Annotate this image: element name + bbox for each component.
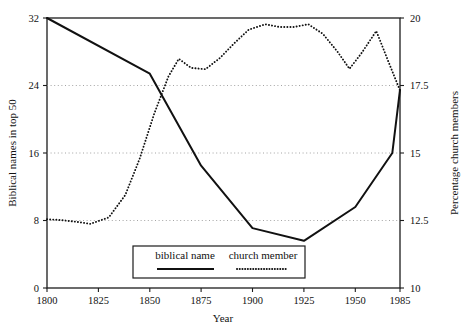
y-right-tick-label-17_5: 17.5 bbox=[410, 80, 428, 91]
y-left-axis-title: Biblical names in top 50 bbox=[6, 99, 18, 207]
y-right-tick-label-12_5: 12.5 bbox=[410, 215, 428, 226]
x-tick-label-1825: 1825 bbox=[88, 295, 109, 306]
legend-label-biblical-name: biblical name bbox=[155, 249, 215, 261]
gridlines bbox=[47, 86, 400, 221]
x-tick-label-1985: 1985 bbox=[390, 295, 411, 306]
x-tick-label-1800: 1800 bbox=[37, 295, 58, 306]
x-tick-label-1925: 1925 bbox=[293, 295, 314, 306]
x-tick-label-1850: 1850 bbox=[139, 295, 160, 306]
y-left-tick-label-24: 24 bbox=[29, 80, 40, 91]
chart-figure: 0 8 16 24 32 10 12.5 15 17.5 20 bbox=[0, 0, 474, 331]
x-tick-label-1950: 1950 bbox=[345, 295, 366, 306]
x-axis-title: Year bbox=[213, 312, 234, 324]
legend-label-church-member: church member bbox=[229, 249, 298, 261]
series-biblical-name bbox=[47, 18, 400, 241]
y-left-tick-label-8: 8 bbox=[34, 215, 39, 226]
y-left-tick-label-0: 0 bbox=[34, 283, 39, 294]
y-right-tick-label-10: 10 bbox=[410, 283, 421, 294]
x-tick-label-1875: 1875 bbox=[191, 295, 212, 306]
chart-legend[interactable]: biblical name church member bbox=[133, 246, 305, 278]
dual-axis-line-chart: 0 8 16 24 32 10 12.5 15 17.5 20 bbox=[0, 0, 474, 331]
y-left-tick-label-16: 16 bbox=[29, 148, 40, 159]
y-right-tick-label-20: 20 bbox=[410, 13, 421, 24]
y-right-tick-label-15: 15 bbox=[410, 148, 421, 159]
y-left-tick-label-32: 32 bbox=[29, 13, 40, 24]
x-tick-label-1900: 1900 bbox=[242, 295, 263, 306]
y-right-axis-title: Percentage church members bbox=[448, 91, 460, 215]
